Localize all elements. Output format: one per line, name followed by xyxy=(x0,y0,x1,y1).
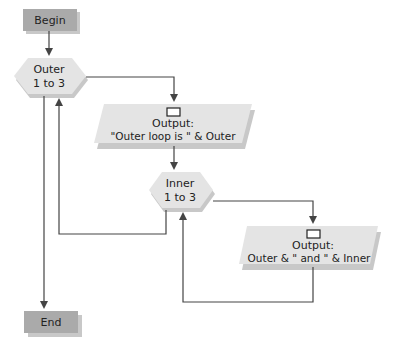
output-icon xyxy=(167,108,180,116)
begin-node: Begin xyxy=(23,9,80,34)
output2-node: Output: Outer & " and " & Inner xyxy=(239,226,381,270)
inner-label-line1: Inner xyxy=(166,177,195,190)
end-label: End xyxy=(41,316,62,329)
arrow-head-icon xyxy=(179,212,187,220)
flowchart-canvas: Begin Outer 1 to 3 Output: "Outer loop i… xyxy=(0,0,406,350)
output1-node: Output: "Outer loop is " & Outer xyxy=(94,104,255,149)
end-node: End xyxy=(24,311,82,337)
inner-loop-node: Inner 1 to 3 xyxy=(149,172,215,212)
arrow-head-icon xyxy=(40,301,48,309)
output2-label-line2: Outer & " and " & Inner xyxy=(248,252,371,264)
inner-label-line2: 1 to 3 xyxy=(164,191,196,204)
outer-label-line1: Outer xyxy=(33,63,65,76)
arrow-head-icon xyxy=(170,162,178,170)
output1-label-line2: "Outer loop is " & Outer xyxy=(111,130,237,142)
output2-label-line1: Output: xyxy=(292,239,334,252)
arrow-head-icon xyxy=(170,94,178,102)
outer-loop-node: Outer 1 to 3 xyxy=(14,58,88,98)
arrow-head-icon xyxy=(309,216,317,224)
arrow-head-icon xyxy=(45,48,53,56)
edge-inner-output2 xyxy=(213,201,313,222)
begin-label: Begin xyxy=(34,14,65,27)
output1-label-line1: Output: xyxy=(152,117,194,130)
output-icon xyxy=(307,230,320,238)
arrow-head-icon xyxy=(55,98,63,106)
edge-outer-output1 xyxy=(86,77,174,100)
outer-label-line2: 1 to 3 xyxy=(33,77,65,90)
